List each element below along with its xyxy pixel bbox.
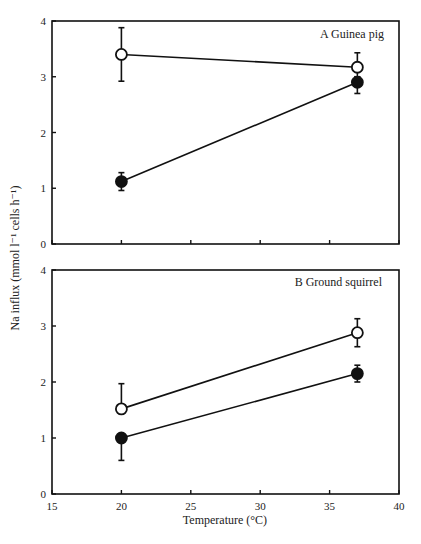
x-axis-label: Temperature (°C) bbox=[183, 513, 267, 527]
filled-circle-marker bbox=[116, 433, 127, 444]
x-tick-label: 15 bbox=[47, 500, 59, 512]
series-line bbox=[121, 82, 357, 181]
filled-circle-marker bbox=[116, 176, 127, 187]
y-tick-label: 4 bbox=[41, 15, 47, 27]
series-line bbox=[121, 54, 357, 67]
panel-a-guinea-pig: 01234A Guinea pig bbox=[41, 15, 400, 250]
panel-title: A Guinea pig bbox=[320, 27, 384, 41]
y-tick-label: 3 bbox=[41, 320, 47, 332]
y-tick-label: 3 bbox=[41, 71, 47, 83]
open-circle-marker bbox=[352, 327, 363, 338]
x-tick-label: 30 bbox=[255, 500, 267, 512]
y-tick-label: 2 bbox=[41, 127, 47, 139]
plot-frame bbox=[52, 21, 399, 244]
y-axis-label: Na influx (mmol l⁻¹ cells h⁻¹) bbox=[8, 186, 22, 331]
plot-frame bbox=[52, 270, 399, 494]
y-tick-label: 0 bbox=[41, 488, 47, 500]
figure: 01234A Guinea pig 01234152025303540B Gro… bbox=[0, 0, 421, 544]
open-circle-marker bbox=[352, 62, 363, 73]
y-tick-label: 0 bbox=[41, 238, 47, 250]
y-tick-label: 2 bbox=[41, 376, 47, 388]
panel-title: B Ground squirrel bbox=[295, 275, 383, 289]
open-circle-marker bbox=[116, 403, 127, 414]
open-circle-marker bbox=[116, 49, 127, 60]
y-tick-label: 1 bbox=[41, 182, 47, 194]
series-line bbox=[121, 333, 357, 409]
x-tick-label: 20 bbox=[116, 500, 128, 512]
y-tick-label: 1 bbox=[41, 432, 47, 444]
series-line bbox=[121, 374, 357, 438]
x-tick-label: 25 bbox=[185, 500, 197, 512]
filled-circle-marker bbox=[352, 77, 363, 88]
y-tick-label: 4 bbox=[41, 264, 47, 276]
filled-circle-marker bbox=[352, 368, 363, 379]
panel-b-ground-squirrel: 01234152025303540B Ground squirrel bbox=[41, 264, 406, 512]
x-tick-label: 40 bbox=[394, 500, 406, 512]
x-tick-label: 35 bbox=[324, 500, 336, 512]
